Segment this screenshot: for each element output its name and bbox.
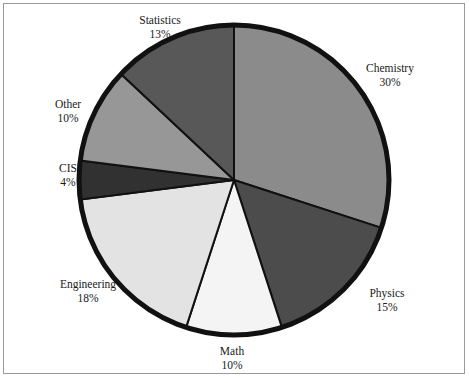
pie-label-other: Other10%	[55, 98, 81, 124]
pie-label-engineering: Engineering18%	[60, 278, 116, 304]
pie-chart-figure: Chemistry30%Physics15%Math10%Engineering…	[0, 0, 469, 383]
pie-label-math: Math10%	[220, 345, 245, 371]
pie-chart: Chemistry30%Physics15%Math10%Engineering…	[0, 0, 469, 383]
pie-label-chemistry: Chemistry30%	[366, 62, 414, 88]
pie-label-cis: CIS4%	[59, 162, 77, 188]
pie-label-physics: Physics15%	[369, 287, 405, 313]
